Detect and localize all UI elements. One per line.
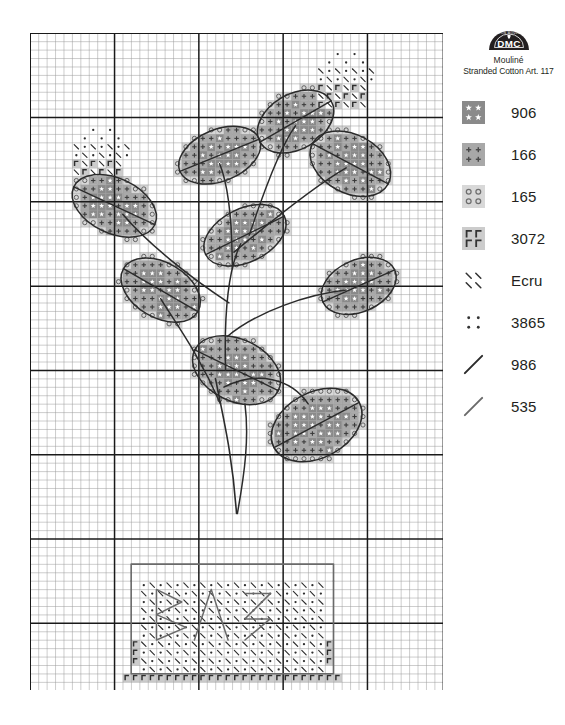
- pattern-chart-svg: [30, 33, 443, 690]
- pattern-chart: [30, 33, 443, 690]
- legend-symbol-circle-icon: [462, 185, 485, 208]
- dmc-logo-icon: COTON MOULINE DMC: [485, 24, 533, 54]
- stitch-cells-layer: [72, 53, 401, 682]
- legend-color-code: 3865: [511, 314, 545, 331]
- legend-entry-list: 9061661653072Ecru3865986535: [452, 91, 565, 427]
- legend-color-code: Ecru: [511, 272, 543, 289]
- legend-symbol-backslash-icon: [462, 269, 485, 292]
- legend-row: 3865: [452, 301, 565, 343]
- legend-row: 3072: [452, 217, 565, 259]
- legend-symbol-r-icon: [462, 227, 485, 250]
- legend-symbol-dot-icon: [462, 311, 485, 334]
- legend-color-code: 166: [511, 146, 537, 163]
- legend-row: 906: [452, 91, 565, 133]
- legend-symbol-star-icon: [462, 101, 485, 124]
- svg-text:COTON MOULINE: COTON MOULINE: [493, 31, 524, 35]
- brand-line-mouline: Mouliné: [452, 55, 565, 66]
- legend-symbol-line-icon: [462, 353, 485, 376]
- brand-line-article: Stranded Cotton Art. 117: [452, 66, 565, 77]
- legend-color-code: 165: [511, 188, 537, 205]
- legend-row: 165: [452, 175, 565, 217]
- legend-row: 166: [452, 133, 565, 175]
- svg-text:DMC: DMC: [497, 38, 521, 49]
- legend-row: Ecru: [452, 259, 565, 301]
- legend-row: 986: [452, 343, 565, 385]
- legend-symbol-cross-icon: [462, 143, 485, 166]
- legend-color-code: 906: [511, 104, 537, 121]
- legend-color-code: 535: [511, 398, 537, 415]
- legend-color-code: 3072: [511, 230, 545, 247]
- dmc-brand: COTON MOULINE DMC Mouliné Stranded Cotto…: [452, 24, 565, 77]
- legend-row: 535: [452, 385, 565, 427]
- legend-symbol-line-icon: [462, 395, 485, 418]
- legend-panel: COTON MOULINE DMC Mouliné Stranded Cotto…: [452, 24, 565, 427]
- legend-color-code: 986: [511, 356, 537, 373]
